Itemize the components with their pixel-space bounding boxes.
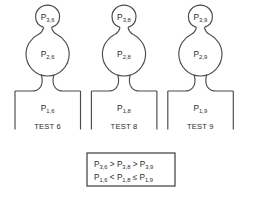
upper-neck-right-1 <box>52 27 57 34</box>
top-bulb-label-3: P3,9 <box>194 12 208 23</box>
lower-neck-left-1 <box>15 75 42 91</box>
base-label-3: P1,9 <box>194 103 208 114</box>
apparatus-unit-2: P3,8 P2,8 P1,8 TEST 8 <box>91 5 156 130</box>
apparatus-unit-3: P3,9 P2,9 P1,9 TEST 9 <box>168 5 234 130</box>
apparatus-unit-1: P3,6 P2,6 P1,6 TEST 6 <box>15 5 81 130</box>
lower-neck-left-2 <box>91 75 118 91</box>
base-label-2: P1,8 <box>117 103 132 114</box>
lower-neck-right-2 <box>129 75 157 91</box>
apparatus-diagram: P3,6 P2,6 P1,6 TEST 6 P3,8 P2,8 P1,8 TES… <box>0 0 254 201</box>
main-bulb-label-3: P2,9 <box>194 49 208 60</box>
upper-neck-3 <box>191 27 196 34</box>
upper-neck-2 <box>115 27 120 34</box>
upper-neck-right-2 <box>128 27 133 34</box>
figure-canvas: P3,6 P2,6 P1,6 TEST 6 P3,8 P2,8 P1,8 TES… <box>0 0 254 201</box>
base-label-1: P1,6 <box>41 103 56 114</box>
main-bulb-label-2: P2,8 <box>117 49 132 60</box>
lower-neck-right-3 <box>206 75 234 91</box>
inequality-box: P3,6 > P3,8 > P3,9 P1,6 < P1,8 ≤ P1,9 <box>87 153 175 186</box>
lower-neck-left-3 <box>168 75 195 91</box>
top-bulb-label-2: P3,8 <box>117 12 132 23</box>
lower-neck-right-1 <box>53 75 81 91</box>
test-label-2: TEST 8 <box>111 122 138 131</box>
test-label-3: TEST 9 <box>187 122 214 131</box>
main-bulb-label-1: P2,6 <box>41 49 56 60</box>
upper-neck-1 <box>38 27 43 34</box>
top-bulb-label-1: P3,6 <box>41 12 56 23</box>
upper-neck-right-3 <box>204 27 209 34</box>
test-label-1: TEST 6 <box>34 122 61 131</box>
